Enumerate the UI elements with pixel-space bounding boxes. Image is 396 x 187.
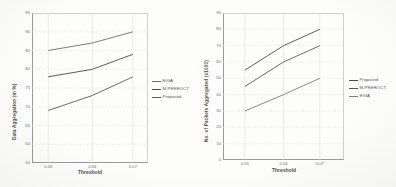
x-tick-label: 0.05 xyxy=(241,162,249,166)
x-tick-label: 0.07 xyxy=(316,162,324,166)
legend-item: Proposed xyxy=(152,95,189,99)
y-tick-label: 65 xyxy=(25,123,30,127)
legend-item: EIGA xyxy=(349,94,386,98)
series-line-proposed xyxy=(245,29,320,70)
legend-label: Proposed xyxy=(360,78,379,82)
chart-data-aggregation: Data Aggregation (in %) Threshold EIGAM-… xyxy=(0,0,198,187)
y-tick-label: 70 xyxy=(25,105,30,109)
legend-line-swatch xyxy=(152,81,161,82)
y-tick-label: 60 xyxy=(216,60,221,64)
y-axis-label: Data Aggregation (in %) xyxy=(12,84,17,141)
y-tick-label: 50 xyxy=(216,76,221,80)
legend-item: M-PEEROCT xyxy=(349,86,386,90)
legend-label: M-PEEROCT xyxy=(163,87,189,91)
series-line-eiga xyxy=(48,32,133,51)
legend-line-swatch xyxy=(349,88,358,89)
series-line-m-peeroct xyxy=(245,46,320,87)
y-axis-label: No. of Packets Aggregated (x1000) xyxy=(204,60,209,142)
y-tick-label: 85 xyxy=(25,48,30,52)
x-tick-label: 0.06 xyxy=(279,162,287,166)
legend-item: EIGA xyxy=(152,79,189,83)
y-tick-label: 30 xyxy=(216,109,221,113)
plot-canvas xyxy=(32,13,148,163)
y-tick-label: 75 xyxy=(25,86,30,90)
legend-item: Proposed xyxy=(349,78,386,82)
y-tick-label: 20 xyxy=(216,125,221,129)
legend-line-swatch xyxy=(349,80,358,81)
legend: ProposedM-PEEROCTEIGA xyxy=(349,78,386,98)
legend-label: M-PEEROCT xyxy=(360,86,386,90)
y-tick-label: 60 xyxy=(25,142,30,146)
legend: EIGAM-PEEROCTProposed xyxy=(152,79,189,99)
series-line-proposed xyxy=(48,77,133,111)
y-tick-label: 70 xyxy=(216,44,221,48)
y-tick-label: 40 xyxy=(216,93,221,97)
x-axis-label: Threshold xyxy=(78,169,102,175)
legend-label: Proposed xyxy=(163,95,182,99)
legend-item: M-PEEROCT xyxy=(152,87,189,91)
legend-line-swatch xyxy=(152,97,161,98)
legend-line-swatch xyxy=(349,96,358,97)
x-tick-label: 0.06 xyxy=(88,165,96,169)
y-tick-label: 0 xyxy=(219,158,221,162)
x-tick-label: 0.07 xyxy=(129,165,137,169)
y-tick-label: 90 xyxy=(25,30,30,34)
legend-label: EIGA xyxy=(360,94,371,98)
y-tick-label: 95 xyxy=(25,11,30,15)
y-tick-label: 80 xyxy=(216,27,221,31)
y-tick-label: 90 xyxy=(216,11,221,15)
series-line-m-peeroct xyxy=(48,54,133,77)
plot-canvas xyxy=(223,13,344,160)
y-tick-label: 10 xyxy=(216,142,221,146)
chart-packets-aggregated: No. of Packets Aggregated (x1000) Thresh… xyxy=(198,0,396,187)
legend-line-swatch xyxy=(152,89,161,90)
y-tick-label: 80 xyxy=(25,67,30,71)
y-tick-label: 55 xyxy=(25,161,30,165)
x-axis-label: Threshold xyxy=(272,167,296,173)
x-tick-label: 0.05 xyxy=(44,165,52,169)
legend-label: EIGA xyxy=(163,79,174,83)
